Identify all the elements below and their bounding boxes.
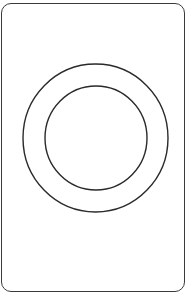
concentric-rings <box>0 0 187 295</box>
inner-ring <box>45 86 147 190</box>
